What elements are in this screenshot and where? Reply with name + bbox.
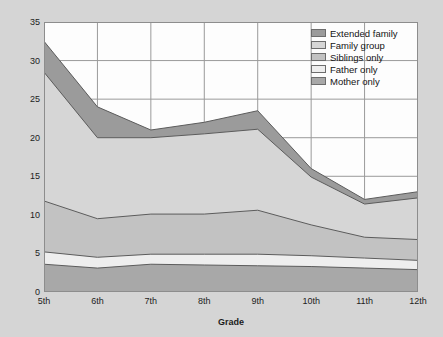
x-tick-label: 11th bbox=[356, 296, 373, 306]
chart-canvas: Percent of waking hours (non-school) 051… bbox=[0, 0, 443, 337]
legend-item-family-group[interactable]: Family group bbox=[311, 39, 398, 51]
legend-item-mother-only[interactable]: Mother only bbox=[311, 75, 398, 87]
x-tick-label: 10th bbox=[302, 296, 320, 306]
x-axis-title: Grade bbox=[44, 317, 418, 327]
legend-swatch-family-group bbox=[311, 41, 326, 49]
legend-label-mother-only: Mother only bbox=[330, 76, 380, 87]
legend-label-extended-family: Extended family bbox=[330, 28, 398, 39]
legend-item-extended-family[interactable]: Extended family bbox=[311, 27, 398, 39]
y-tick-label: 0 bbox=[16, 287, 40, 297]
x-tick-label: 7th bbox=[145, 296, 158, 306]
x-tick-label: 12th bbox=[409, 296, 427, 306]
y-axis-ticks: 05101520253035 bbox=[10, 0, 40, 337]
legend-item-father-only[interactable]: Father only bbox=[311, 63, 398, 75]
x-tick-label: 5th bbox=[38, 296, 51, 306]
legend-label-siblings-only: Siblings only bbox=[330, 52, 383, 63]
legend-swatch-father-only bbox=[311, 65, 326, 73]
y-tick-label: 5 bbox=[16, 248, 40, 258]
y-tick-label: 35 bbox=[16, 17, 40, 27]
legend-label-father-only: Father only bbox=[330, 64, 378, 75]
legend-swatch-extended-family bbox=[311, 29, 326, 37]
y-tick-label: 30 bbox=[16, 56, 40, 66]
legend-swatch-siblings-only bbox=[311, 53, 326, 61]
y-tick-label: 25 bbox=[16, 94, 40, 104]
legend-swatch-mother-only bbox=[311, 77, 326, 85]
y-tick-label: 15 bbox=[16, 171, 40, 181]
legend-item-siblings-only[interactable]: Siblings only bbox=[311, 51, 398, 63]
legend-label-family-group: Family group bbox=[330, 40, 385, 51]
x-tick-label: 6th bbox=[91, 296, 104, 306]
y-tick-label: 20 bbox=[16, 133, 40, 143]
chart-legend: Extended family Family group Siblings on… bbox=[311, 27, 398, 87]
x-tick-label: 9th bbox=[251, 296, 264, 306]
x-tick-label: 8th bbox=[198, 296, 211, 306]
y-tick-label: 10 bbox=[16, 210, 40, 220]
